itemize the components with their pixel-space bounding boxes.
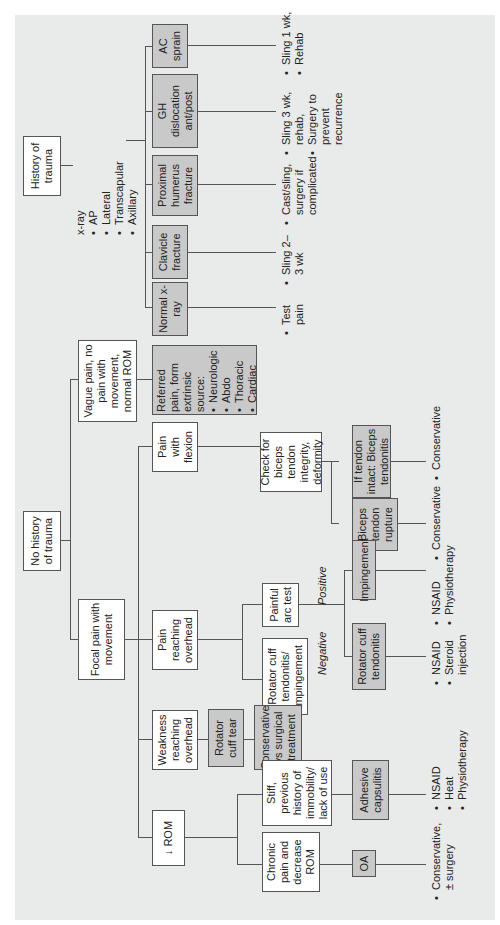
clavicle-fracture-node: Clavicle fracture	[152, 225, 188, 279]
connector	[188, 252, 276, 253]
painful-arc-test-node: Painful arc test	[262, 583, 299, 627]
rc-tendonitis-impingement-node: Rotator cuff tendonitis/ impingement	[262, 638, 308, 715]
connector	[145, 47, 146, 308]
connector	[145, 252, 152, 253]
stiff-immobility-node: Stiff, previous history of immobility/ l…	[262, 760, 332, 826]
connector	[138, 639, 152, 640]
connector	[145, 184, 152, 185]
connector	[242, 679, 262, 680]
connector	[138, 837, 152, 838]
connector	[376, 864, 426, 865]
ac-sprain-treatment: Sling 1 wk,Rehab	[280, 5, 306, 75]
connector	[331, 461, 339, 462]
rotator-cuff-tear-node: Rotator cuff tear	[208, 709, 244, 767]
connector	[331, 462, 332, 524]
connector	[70, 639, 78, 640]
flowchart: History of trauma x-ray AP Lateral Trans…	[0, 0, 500, 925]
connector	[70, 379, 78, 380]
connector	[386, 656, 426, 657]
impingement-treatment: NSAIDPhysiotherapy	[430, 530, 456, 625]
oa-treatment: Conservative, ± surgery	[430, 820, 456, 900]
referred-pain-node: Referred pain, form extrinsic source: Ne…	[152, 345, 257, 415]
positive-label: Positive	[316, 566, 329, 605]
connector	[237, 794, 262, 795]
adhesive-capsulitis-treatment: NSAID Heat Physiotherapy	[430, 720, 469, 810]
connector	[138, 739, 152, 740]
connector	[389, 794, 426, 795]
connector	[331, 523, 339, 524]
connector	[61, 165, 73, 166]
connector	[188, 45, 276, 46]
connector	[198, 639, 242, 640]
connector	[320, 864, 352, 865]
oa-node: OA	[352, 850, 376, 877]
clavicle-fracture-treatment: Sling 2–3 wk	[280, 230, 306, 285]
connector	[332, 794, 352, 795]
history-of-trauma-node: History of trauma	[23, 136, 61, 196]
focal-pain-node: Focal pain with movement	[78, 599, 125, 680]
rotator-cuff-tendonitis-node: Rotator cuff tendonitis	[352, 623, 386, 690]
connector	[61, 540, 70, 541]
gh-dislocation-treatment: Sling 3 wk, rehab,Surgery to prevent rec…	[280, 80, 345, 155]
gh-dislocation-node: GH dislocation ant/post	[152, 74, 198, 148]
connector	[242, 605, 243, 680]
normal-xray-treatment: Test pain	[280, 290, 306, 335]
connector	[242, 604, 262, 605]
pain-with-flexion-node: Pain with flexion	[152, 422, 198, 472]
connector	[145, 307, 152, 308]
connector	[391, 461, 426, 462]
impingement-node: Impingement	[352, 540, 376, 600]
negative-label: Negative	[316, 632, 329, 675]
proximal-humerus-treatment: Cast/sling, surgery if complicated	[280, 155, 319, 225]
connector	[198, 184, 276, 185]
proximal-humerus-fracture-node: Proximal humerus fracture	[152, 155, 198, 216]
connector	[244, 739, 254, 740]
connector	[198, 446, 260, 447]
biceps-tendonitis-node: If tendon intact: Biceps tendonitis	[352, 425, 391, 498]
connector	[185, 837, 237, 838]
connector	[145, 111, 152, 112]
xray-views-list: x-ray AP Lateral Transcapular Axillary	[74, 105, 139, 235]
connector	[398, 523, 426, 524]
connector	[145, 46, 152, 47]
rc-tendonitis-treatment: NSAIDSteroid injection	[430, 625, 469, 685]
connector	[137, 379, 152, 380]
pain-reaching-overhead-node: Pain reaching overhead	[152, 610, 198, 670]
ac-sprain-node: AC sprain	[152, 24, 188, 68]
biceps-tendonitis-treatment: Conservative	[430, 400, 443, 480]
check-biceps-tendon-node: Check for biceps tendon integrity, defor…	[260, 432, 322, 492]
connector	[188, 307, 276, 308]
decreased-rom-node: ↓ ROM	[152, 810, 185, 866]
connector	[376, 570, 426, 571]
connector	[344, 570, 352, 571]
connector	[198, 111, 276, 112]
connector	[237, 864, 262, 865]
vague-pain-node: Vague pain, no pain with movement, norma…	[78, 340, 137, 422]
normal-xray-node: Normal x-ray	[152, 282, 188, 336]
connector	[198, 739, 208, 740]
connector	[138, 447, 139, 838]
connector	[70, 380, 71, 640]
weakness-reaching-overhead-node: Weakness reaching overhead	[152, 710, 198, 770]
connector	[344, 656, 352, 657]
chronic-pain-node: Chronic pain and decrease ROM	[262, 832, 320, 892]
connector	[138, 446, 152, 447]
adhesive-capsulitis-node: Adhesive capsulitis	[352, 760, 389, 820]
connector	[125, 639, 138, 640]
connector	[322, 461, 331, 462]
connector	[237, 795, 238, 865]
no-history-of-trauma-node: No history of trauma	[23, 511, 61, 571]
connector	[126, 140, 146, 141]
connector	[344, 571, 345, 657]
